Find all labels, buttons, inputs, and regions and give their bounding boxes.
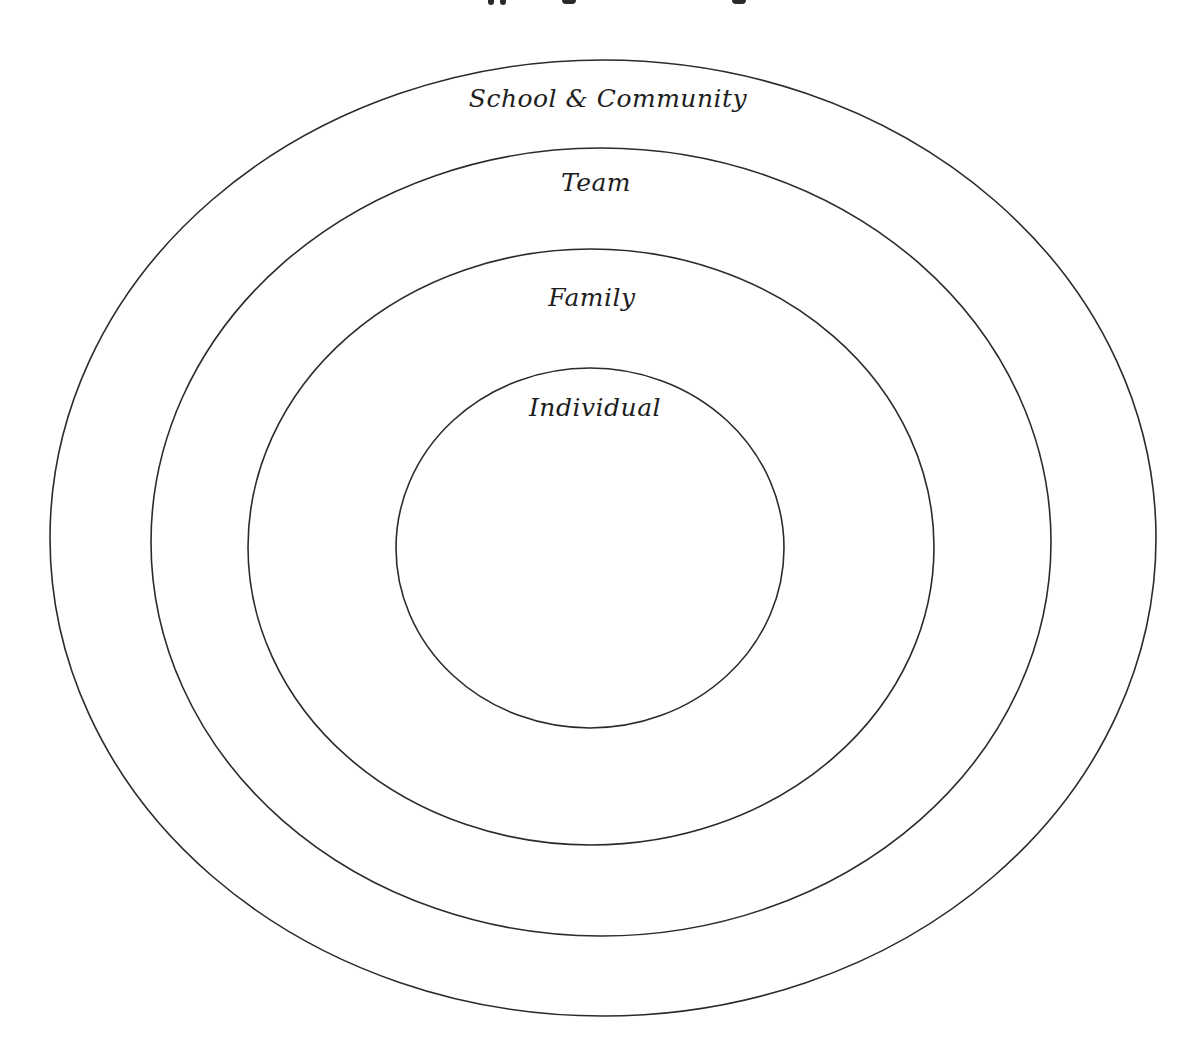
label-school-community: School & Community	[469, 86, 747, 111]
label-family: Family	[548, 285, 635, 310]
ring-individual	[396, 368, 784, 728]
ring-team	[151, 148, 1051, 936]
label-team: Team	[561, 170, 631, 195]
ring-family	[248, 249, 934, 845]
label-individual: Individual	[529, 395, 661, 420]
ring-school-community	[50, 60, 1156, 1016]
concentric-rings-diagram	[0, 0, 1195, 1056]
